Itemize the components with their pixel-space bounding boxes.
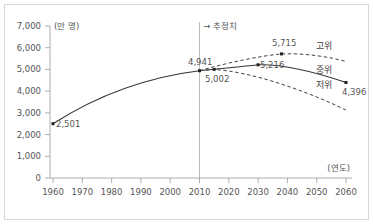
- series-label-mid: 중위: [316, 65, 332, 75]
- x-tick-1970: 1970: [71, 187, 93, 197]
- estimate-label: → 추정치: [203, 21, 237, 31]
- y-tick-5000: 5,000: [17, 64, 41, 74]
- y-tick-1000: 1,000: [17, 151, 41, 161]
- marker-2015: [213, 68, 216, 71]
- y-tick-0: 0: [36, 173, 41, 183]
- label-4941: 4,941: [188, 57, 212, 67]
- x-unit-label: (연도): [327, 163, 350, 173]
- x-tick-1960: 1960: [42, 187, 64, 197]
- x-tick-2060: 2060: [335, 187, 357, 197]
- y-ticks: [45, 26, 50, 178]
- y-tick-4000: 4,000: [17, 86, 41, 96]
- x-tick-2030: 2030: [247, 187, 269, 197]
- series-label-high: 고위: [316, 41, 332, 51]
- y-tick-6000: 6,000: [17, 43, 41, 53]
- label-5216: 5,216: [260, 60, 284, 70]
- x-tick-2040: 2040: [277, 187, 299, 197]
- x-tick-1990: 1990: [130, 187, 152, 197]
- x-tick-2010: 2010: [189, 187, 211, 197]
- y-tick-3000: 3,000: [17, 108, 41, 118]
- x-tick-2000: 2000: [159, 187, 181, 197]
- historical-line: [53, 71, 200, 124]
- label-4396: 4,396: [342, 87, 366, 97]
- series-label-low: 저위: [316, 80, 332, 90]
- x-tick-2050: 2050: [306, 187, 328, 197]
- label-5002: 5,002: [205, 74, 229, 84]
- x-tick-2020: 2020: [218, 187, 240, 197]
- marker-2060: [345, 81, 348, 84]
- y-tick-7000: 7,000: [17, 21, 41, 31]
- x-ticks: [53, 178, 346, 183]
- x-tick-1980: 1980: [101, 187, 123, 197]
- y-tick-labels: 7,000 6,000 5,000 4,000 3,000 2,000 1,00…: [17, 21, 41, 183]
- marker-2010: [198, 69, 201, 72]
- label-5715: 5,715: [272, 38, 296, 48]
- y-tick-2000: 2,000: [17, 130, 41, 140]
- marker-1960: [52, 122, 55, 125]
- marker-2038: [280, 52, 283, 55]
- label-2501: 2,501: [56, 119, 80, 129]
- y-unit-label: (만 명): [54, 21, 79, 31]
- x-tick-labels: 1960 1970 1980 1990 2000 2010 2020 2030 …: [42, 187, 357, 197]
- population-line-chart: 7,000 6,000 5,000 4,000 3,000 2,000 1,00…: [0, 0, 373, 224]
